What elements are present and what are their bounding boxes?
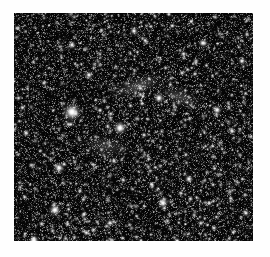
figure-root bbox=[0, 0, 270, 257]
star-field-image bbox=[14, 13, 253, 241]
star-field-panel bbox=[14, 13, 253, 241]
